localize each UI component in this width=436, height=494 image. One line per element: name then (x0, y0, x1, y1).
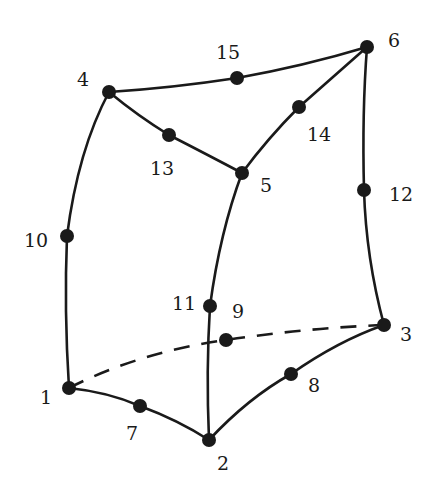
node-label-5: 5 (260, 174, 272, 196)
node-14 (292, 100, 306, 114)
node-15 (230, 71, 244, 85)
wedge-element-diagram: 123456789101112131415 (0, 0, 436, 494)
node-label-4: 4 (77, 68, 89, 90)
diagram-canvas: 123456789101112131415 (0, 0, 436, 494)
node-label-14: 14 (307, 123, 331, 145)
node-label-8: 8 (308, 374, 320, 396)
node-9 (219, 333, 233, 347)
node-label-10: 10 (24, 229, 48, 251)
node-label-6: 6 (388, 29, 400, 51)
edge-1-7-2 (69, 388, 209, 440)
nodes-group (60, 40, 391, 447)
node-6 (360, 40, 374, 54)
node-label-11: 11 (172, 292, 196, 314)
node-label-12: 12 (389, 183, 413, 205)
node-label-13: 13 (150, 157, 174, 179)
edge-2-8-3 (209, 325, 384, 440)
node-4 (102, 85, 116, 99)
node-11 (203, 299, 217, 313)
node-10 (60, 229, 74, 243)
node-8 (284, 367, 298, 381)
node-2 (202, 433, 216, 447)
edges-group (66, 47, 384, 440)
node-3 (377, 318, 391, 332)
node-label-1: 1 (40, 386, 52, 408)
node-5 (235, 166, 249, 180)
node-label-9: 9 (232, 300, 244, 322)
node-label-3: 3 (400, 323, 412, 345)
node-label-2: 2 (217, 452, 229, 474)
node-12 (357, 183, 371, 197)
node-7 (133, 399, 147, 413)
node-13 (162, 128, 176, 142)
node-label-7: 7 (126, 422, 138, 444)
node-label-15: 15 (216, 41, 240, 63)
node-1 (62, 381, 76, 395)
